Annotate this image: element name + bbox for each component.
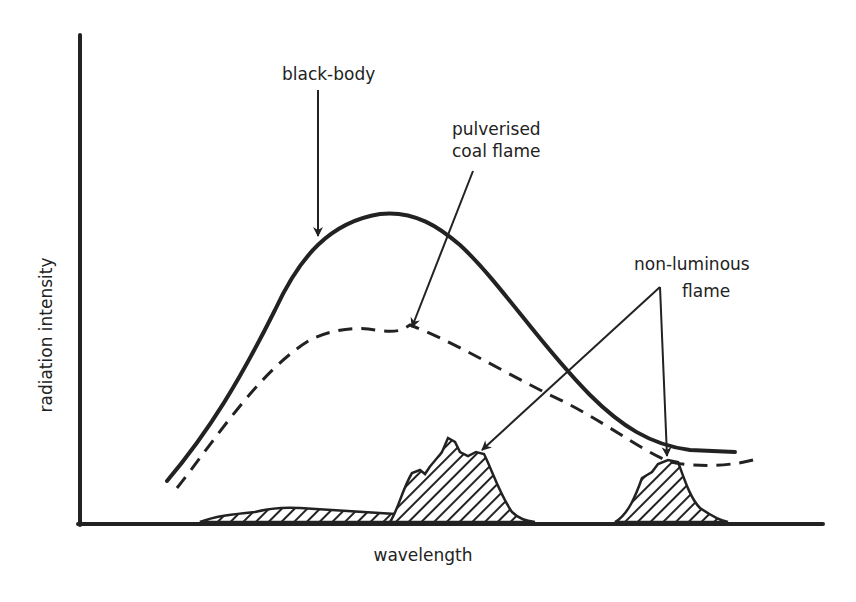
coal-flame-label-line2: coal flame [452,141,540,161]
x-axis-label: wavelength [373,545,472,565]
y-axis-label: radiation intensity [36,257,56,412]
coal-flame-label-line1: pulverised [452,119,541,139]
non-luminous-label-line1: non-luminous [634,254,750,274]
emission-band-long [615,460,728,522]
non-luminous-label-line2: flame [682,281,730,301]
non-luminous-arrow-middle [482,287,660,450]
black-body-label: black-body [282,64,375,84]
non-luminous-arrow-long [660,287,667,456]
emission-band-short [200,508,398,522]
radiation-spectrum-diagram: radiation intensity wavelength black-bod… [0,0,856,602]
emission-band-middle [390,438,535,522]
